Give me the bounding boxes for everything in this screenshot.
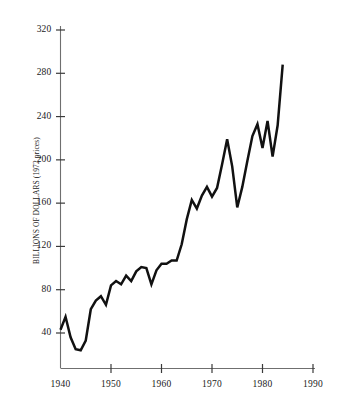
axis-lines	[61, 26, 316, 369]
y-tick-label: 80	[18, 285, 52, 295]
chart-container: 4080120160200240280320 19401950196019701…	[0, 0, 339, 416]
x-tick-label: 1970	[192, 380, 232, 390]
y-axis-title: BILLIONS OF DOLLARS (1972 prices)	[32, 116, 41, 286]
x-tick-label: 1950	[91, 380, 131, 390]
line-chart-plot	[0, 0, 339, 416]
x-tick-label: 1940	[41, 380, 81, 390]
x-tick-label: 1990	[293, 380, 333, 390]
data-series-line	[61, 65, 283, 351]
y-tick-label: 40	[18, 328, 52, 338]
x-tick-label: 1960	[142, 380, 182, 390]
y-tick-label: 320	[18, 25, 52, 35]
x-tick-label: 1980	[243, 380, 283, 390]
y-tick-label: 280	[18, 68, 52, 78]
